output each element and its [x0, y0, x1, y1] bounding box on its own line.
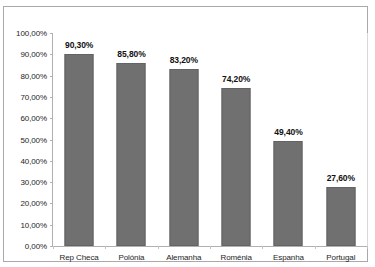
bar[interactable] — [222, 88, 251, 246]
bar-group: 90,30%Rep Checa — [53, 33, 105, 246]
x-axis-category-label: Alemanha — [166, 253, 201, 262]
plot-area: 100,00%90,00%80,00%70,00%60,00%50,00%40,… — [52, 33, 368, 247]
x-axis-category-label: Espanha — [273, 253, 304, 262]
y-axis-label: 20,00% — [20, 199, 53, 208]
bar[interactable] — [65, 54, 94, 246]
bar[interactable] — [326, 187, 355, 246]
bar-group: 27,60%Portugal — [315, 33, 367, 246]
bar-value-label: 90,30% — [65, 40, 93, 50]
x-axis-tick-mark — [367, 246, 368, 249]
x-axis-tick-mark — [158, 246, 159, 249]
x-axis-category-label: Roménia — [220, 253, 251, 262]
chart-frame: 100,00%90,00%80,00%70,00%60,00%50,00%40,… — [3, 6, 368, 262]
y-axis-label: 0,00% — [25, 242, 53, 251]
x-axis-tick-mark — [262, 246, 263, 249]
bar[interactable] — [274, 141, 303, 246]
y-axis-label: 30,00% — [20, 178, 53, 187]
x-axis-tick-mark — [53, 246, 54, 249]
x-axis-category-label: Polónia — [118, 253, 144, 262]
x-axis-category-label: Portugal — [326, 253, 355, 262]
x-axis-tick-mark — [315, 246, 316, 249]
x-axis-tick-mark — [210, 246, 211, 249]
bar-value-label: 49,40% — [274, 127, 302, 137]
x-axis-tick-mark — [105, 246, 106, 249]
bar[interactable] — [169, 69, 198, 246]
y-axis-label: 100,00% — [16, 29, 53, 38]
y-axis-label: 90,00% — [20, 50, 53, 59]
bar-value-label: 74,20% — [222, 74, 250, 84]
bar-group: 83,20%Alemanha — [158, 33, 210, 246]
bar-group: 85,80%Polónia — [105, 33, 157, 246]
bar[interactable] — [117, 63, 146, 246]
y-axis-label: 50,00% — [20, 135, 53, 144]
bar-group: 74,20%Roménia — [210, 33, 262, 246]
bar-group: 49,40%Espanha — [262, 33, 314, 246]
y-axis-label: 60,00% — [20, 114, 53, 123]
y-axis-label: 70,00% — [20, 92, 53, 101]
y-axis-label: 80,00% — [20, 71, 53, 80]
bar-value-label: 83,20% — [170, 55, 198, 65]
bar-value-label: 27,60% — [327, 173, 355, 183]
chart-title: o ensino secundário — [0, 0, 375, 2]
y-axis-label: 40,00% — [20, 156, 53, 165]
bar-value-label: 85,80% — [117, 49, 145, 59]
y-axis-label: 10,00% — [20, 220, 53, 229]
x-axis-category-label: Rep Checa — [60, 253, 99, 262]
